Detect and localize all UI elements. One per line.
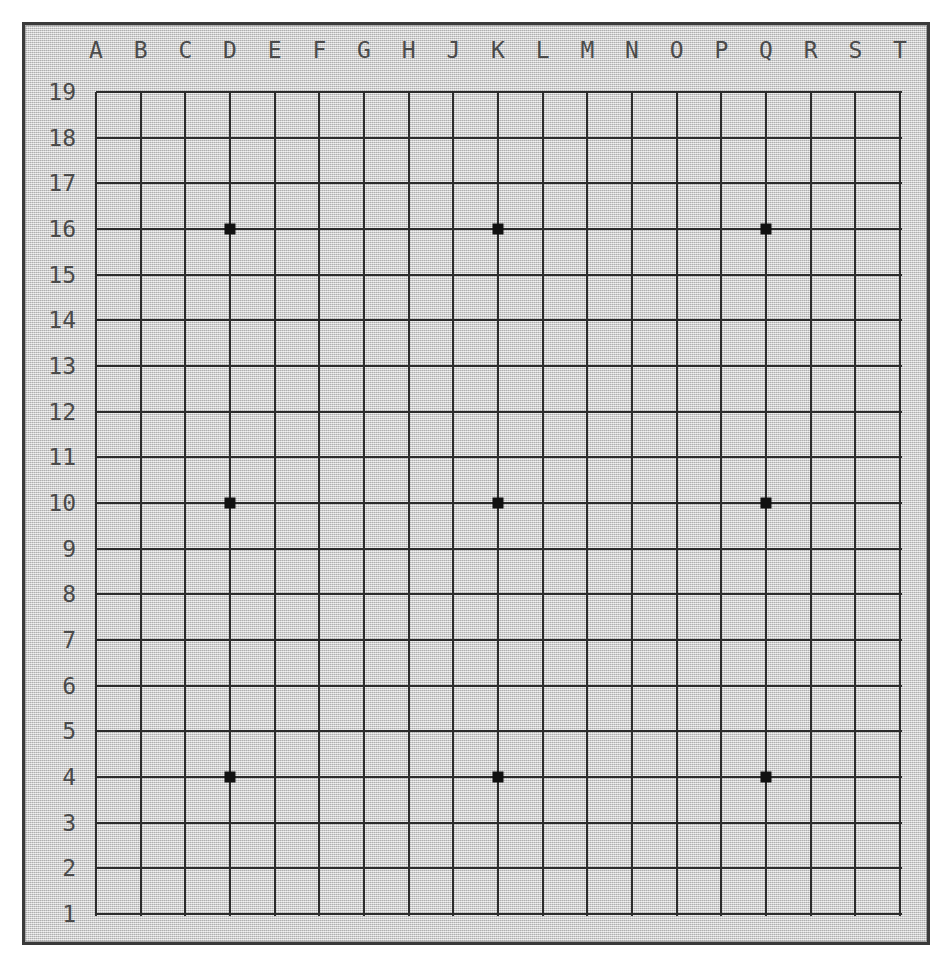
star-point-d16[interactable] [225, 224, 236, 235]
star-point-d10[interactable] [225, 498, 236, 509]
grid-line-horizontal-2 [96, 867, 902, 869]
grid-line-horizontal-14 [96, 319, 902, 321]
grid-line-vertical-g [363, 92, 365, 916]
grid-line-vertical-m [586, 92, 588, 916]
row-label-4: 4 [62, 766, 76, 789]
grid-line-vertical-c [184, 92, 186, 916]
grid-line-horizontal-12 [96, 411, 902, 413]
row-label-10: 10 [48, 492, 76, 515]
screenshot-root: ABCDEFGHJKLMNOPQRST 19181716151413121110… [0, 0, 948, 973]
column-label-d: D [223, 39, 237, 62]
row-label-3: 3 [62, 811, 76, 834]
grid-line-horizontal-5 [96, 730, 902, 732]
grid-line-vertical-s [854, 92, 856, 916]
star-point-q10[interactable] [761, 498, 772, 509]
grid-line-vertical-p [720, 92, 722, 916]
grid-line-vertical-h [408, 92, 410, 916]
row-label-5: 5 [62, 720, 76, 743]
row-label-17: 17 [48, 172, 76, 195]
row-label-14: 14 [48, 309, 76, 332]
column-label-f: F [312, 39, 326, 62]
column-label-a: A [89, 39, 103, 62]
row-label-9: 9 [62, 537, 76, 560]
row-label-15: 15 [48, 263, 76, 286]
grid-line-horizontal-9 [96, 548, 902, 550]
grid-line-horizontal-15 [96, 274, 902, 276]
grid-line-horizontal-19 [96, 91, 902, 93]
row-label-16: 16 [48, 218, 76, 241]
row-label-6: 6 [62, 674, 76, 697]
grid-line-vertical-f [318, 92, 320, 916]
row-label-11: 11 [48, 446, 76, 469]
column-label-e: E [268, 39, 282, 62]
column-label-c: C [178, 39, 192, 62]
column-label-n: N [625, 39, 639, 62]
star-point-d4[interactable] [225, 772, 236, 783]
grid-line-horizontal-13 [96, 365, 902, 367]
go-board-panel[interactable]: ABCDEFGHJKLMNOPQRST 19181716151413121110… [22, 22, 930, 945]
grid-line-vertical-r [810, 92, 812, 916]
row-label-8: 8 [62, 583, 76, 606]
column-label-h: H [402, 39, 416, 62]
column-label-r: R [804, 39, 818, 62]
grid-line-horizontal-8 [96, 593, 902, 595]
grid-line-horizontal-11 [96, 456, 902, 458]
row-label-1: 1 [62, 903, 76, 926]
grid-line-horizontal-7 [96, 639, 902, 641]
star-point-q4[interactable] [761, 772, 772, 783]
grid-line-vertical-b [140, 92, 142, 916]
star-point-q16[interactable] [761, 224, 772, 235]
column-label-b: B [134, 39, 148, 62]
column-label-k: K [491, 39, 505, 62]
grid-line-vertical-o [676, 92, 678, 916]
column-label-j: J [446, 39, 460, 62]
star-point-k16[interactable] [493, 224, 504, 235]
grid-line-vertical-t [899, 92, 901, 916]
row-label-7: 7 [62, 629, 76, 652]
grid-line-horizontal-6 [96, 685, 902, 687]
column-label-l: L [536, 39, 550, 62]
grid-line-vertical-e [274, 92, 276, 916]
column-label-p: P [714, 39, 728, 62]
grid-line-vertical-l [542, 92, 544, 916]
column-label-m: M [580, 39, 594, 62]
grid-line-horizontal-17 [96, 182, 902, 184]
row-label-19: 19 [48, 81, 76, 104]
grid-line-horizontal-18 [96, 137, 902, 139]
grid-line-horizontal-1 [96, 913, 902, 915]
row-label-12: 12 [48, 400, 76, 423]
row-label-13: 13 [48, 355, 76, 378]
column-label-t: T [893, 39, 907, 62]
row-label-18: 18 [48, 126, 76, 149]
grid-line-vertical-j [452, 92, 454, 916]
grid-line-vertical-n [631, 92, 633, 916]
star-point-k10[interactable] [493, 498, 504, 509]
column-label-g: G [357, 39, 371, 62]
grid-line-vertical-a [95, 92, 97, 916]
star-point-k4[interactable] [493, 772, 504, 783]
column-label-q: Q [759, 39, 773, 62]
grid-line-horizontal-3 [96, 822, 902, 824]
column-label-s: S [848, 39, 862, 62]
row-label-2: 2 [62, 857, 76, 880]
column-label-o: O [670, 39, 684, 62]
